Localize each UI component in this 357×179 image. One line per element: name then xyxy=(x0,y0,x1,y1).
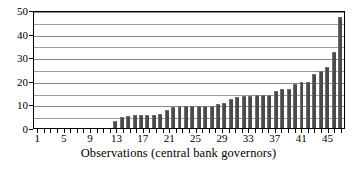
bar-rect xyxy=(171,107,175,128)
x-tick-2 xyxy=(44,129,45,133)
x-tick-6 xyxy=(70,129,71,133)
bar-rect xyxy=(145,115,149,128)
bar-rect xyxy=(126,116,130,128)
x-tick-label: 25 xyxy=(190,133,201,144)
x-tick-18 xyxy=(149,129,150,133)
x-tick-22 xyxy=(176,129,177,133)
bar-rect xyxy=(158,114,162,128)
x-tick-47 xyxy=(341,129,342,133)
x-tick-23 xyxy=(182,129,183,133)
x-tick-label: 13 xyxy=(111,133,122,144)
bar-rect xyxy=(242,96,246,128)
bar-rect xyxy=(306,82,310,128)
bar-rect xyxy=(113,121,117,128)
bar-rect xyxy=(197,106,201,128)
x-tick-27 xyxy=(209,129,210,133)
x-tick-label: 21 xyxy=(164,133,175,144)
y-tick-label: 0 xyxy=(23,124,29,135)
x-tick-label: 5 xyxy=(61,133,67,144)
x-tick-11 xyxy=(103,129,104,133)
x-tick-34 xyxy=(255,129,256,133)
bar-rect xyxy=(332,52,336,128)
x-tick-label: 1 xyxy=(35,133,41,144)
bar-rect xyxy=(190,106,194,128)
bar-rect xyxy=(280,89,284,128)
x-tick-label: 29 xyxy=(216,133,227,144)
bar-rect xyxy=(255,95,259,128)
x-tick-15 xyxy=(130,129,131,133)
bar-rect xyxy=(178,106,182,128)
bar-rect xyxy=(184,106,188,128)
bar-rect xyxy=(120,117,124,128)
x-tick-31 xyxy=(235,129,236,133)
bar-rect xyxy=(267,95,271,128)
bar-rect xyxy=(274,91,278,128)
y-tick-label: 30 xyxy=(17,53,28,64)
bar-rect xyxy=(152,115,156,128)
bar-rect xyxy=(312,74,316,128)
x-tick-43 xyxy=(314,129,315,133)
bar-rect xyxy=(248,96,252,128)
x-tick-3 xyxy=(50,129,51,133)
bar-rect xyxy=(325,67,329,128)
x-axis-title: Observations (central bank governors) xyxy=(0,146,357,161)
x-tick-8 xyxy=(83,129,84,133)
bar-rect xyxy=(338,17,342,128)
x-tick-label: 41 xyxy=(296,133,307,144)
x-tick-label: 45 xyxy=(322,133,333,144)
x-tick-46 xyxy=(334,129,335,133)
bar-rect xyxy=(287,89,291,128)
bar-rect xyxy=(235,97,239,128)
x-tick-14 xyxy=(123,129,124,133)
bar-rect xyxy=(216,104,220,128)
bar-rect xyxy=(319,71,323,128)
y-axis: 01020304050 xyxy=(0,11,33,129)
x-tick-38 xyxy=(281,129,282,133)
y-tick-label: 10 xyxy=(17,100,28,111)
bar-rect xyxy=(222,103,226,128)
x-tick-label: 17 xyxy=(137,133,148,144)
y-tick-label: 40 xyxy=(17,29,28,40)
x-tick-39 xyxy=(288,129,289,133)
bar-rect xyxy=(133,115,137,128)
bar-rect xyxy=(229,99,233,129)
plot-area xyxy=(33,11,345,129)
bar-rect xyxy=(139,115,143,128)
x-tick-label: 9 xyxy=(87,133,93,144)
bar-series xyxy=(34,12,344,128)
bar-rect xyxy=(300,82,304,128)
x-tick-42 xyxy=(308,129,309,133)
x-tick-10 xyxy=(97,129,98,133)
bar-rect xyxy=(261,95,265,128)
bar-rect xyxy=(293,84,297,128)
y-tick-label: 50 xyxy=(17,6,28,17)
bar-chart-figure: 01020304050 159131721252933374145 Observ… xyxy=(0,0,357,179)
x-tick-label: 33 xyxy=(243,133,254,144)
x-tick-7 xyxy=(77,129,78,133)
bar-rect xyxy=(203,106,207,128)
x-tick-4 xyxy=(57,129,58,133)
bar-undefined xyxy=(337,12,343,128)
x-tick-label: 37 xyxy=(269,133,280,144)
x-tick-19 xyxy=(156,129,157,133)
y-tick-label: 20 xyxy=(17,76,28,87)
bar-rect xyxy=(165,110,169,128)
x-tick-26 xyxy=(202,129,203,133)
x-tick-35 xyxy=(262,129,263,133)
bar-rect xyxy=(210,106,214,128)
x-tick-30 xyxy=(229,129,230,133)
x-axis: 159131721252933374145 xyxy=(33,129,345,143)
